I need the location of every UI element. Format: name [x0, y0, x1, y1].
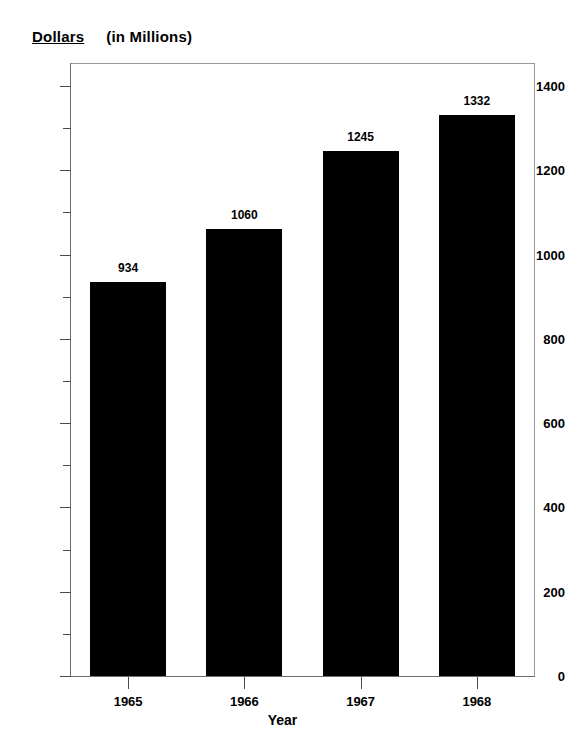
- x-axis-tick: [244, 677, 245, 689]
- bar-1968: [439, 115, 515, 676]
- x-axis-label-1965: 1965: [114, 694, 143, 709]
- bar-value-label-1967: 1245: [347, 130, 374, 144]
- y-axis-tick-minor: [63, 465, 71, 466]
- y-axis-tick-major: [60, 255, 71, 256]
- y-axis-line: [70, 63, 71, 677]
- bar-1965: [90, 282, 166, 676]
- bar-value-label-1966: 1060: [231, 208, 258, 222]
- y-axis-tick-minor: [63, 381, 71, 382]
- bar-value-label-1965: 934: [118, 261, 138, 275]
- y-axis-tick-minor: [63, 212, 71, 213]
- x-axis-tick: [128, 677, 129, 689]
- x-axis-title: Year: [0, 712, 565, 728]
- chart-title-main: Dollars: [32, 28, 84, 45]
- x-axis-tick: [477, 677, 478, 689]
- bar-1966: [206, 229, 282, 676]
- y-axis-tick-minor: [63, 297, 71, 298]
- y-axis-tick-major: [60, 507, 71, 508]
- y-axis-tick-major: [60, 676, 71, 677]
- bar-1967: [323, 151, 399, 676]
- y-axis-tick-major: [60, 86, 71, 87]
- y-axis-label: 400: [509, 500, 565, 515]
- y-axis-tick-major: [60, 170, 71, 171]
- bar-value-label-1968: 1332: [464, 94, 491, 108]
- y-axis-label: 0: [509, 669, 565, 684]
- chart-page: Dollars (in Millions) 020040060080010001…: [0, 0, 565, 749]
- y-axis-tick-minor: [63, 550, 71, 551]
- y-axis-tick-major: [60, 339, 71, 340]
- y-axis-tick-major: [60, 592, 71, 593]
- x-axis-label-1966: 1966: [230, 694, 259, 709]
- y-axis-label: 200: [509, 584, 565, 599]
- x-axis-label-1968: 1968: [462, 694, 491, 709]
- y-axis-label: 800: [509, 331, 565, 346]
- x-axis-line: [70, 676, 535, 677]
- y-axis-label: 1400: [509, 79, 565, 94]
- y-axis-label: 600: [509, 416, 565, 431]
- chart-title-units: (in Millions): [106, 28, 192, 45]
- y-axis-label: 1200: [509, 163, 565, 178]
- y-axis-label: 1000: [509, 247, 565, 262]
- chart-title: Dollars (in Millions): [32, 28, 192, 45]
- y-axis-tick-minor: [63, 634, 71, 635]
- x-axis-tick: [361, 677, 362, 689]
- y-axis-tick-major: [60, 423, 71, 424]
- y-axis-tick-minor: [63, 128, 71, 129]
- x-axis-label-1967: 1967: [346, 694, 375, 709]
